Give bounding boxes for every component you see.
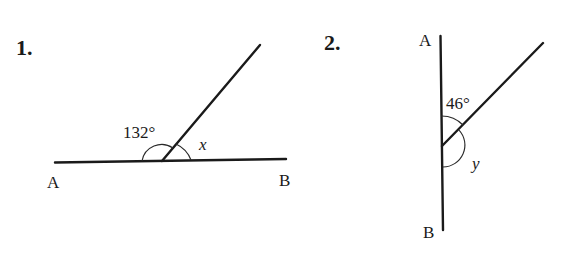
angle-arc-y — [443, 130, 465, 167]
angle-arc-x — [176, 144, 191, 160]
point-b-label: B — [279, 171, 290, 190]
known-angle-label: 46° — [446, 94, 470, 113]
angle-arc-46 — [441, 116, 463, 125]
line-ab — [441, 36, 444, 230]
unknown-angle-label: y — [470, 154, 480, 173]
point-b-label: B — [423, 223, 434, 242]
problem-1: 1. 132° x A B — [16, 35, 290, 192]
ray — [162, 45, 260, 161]
known-angle-label: 132° — [123, 123, 155, 142]
unknown-angle-label: x — [198, 135, 207, 154]
problem-1-number: 1. — [16, 35, 33, 60]
problem-2: 2. 46° y A B — [324, 30, 543, 242]
line-ab — [55, 159, 286, 163]
problem-2-number: 2. — [324, 30, 341, 55]
point-a-label: A — [419, 31, 432, 50]
angle-diagrams: 1. 132° x A B 2. 46° y A B — [0, 0, 577, 255]
point-a-label: A — [47, 173, 60, 192]
